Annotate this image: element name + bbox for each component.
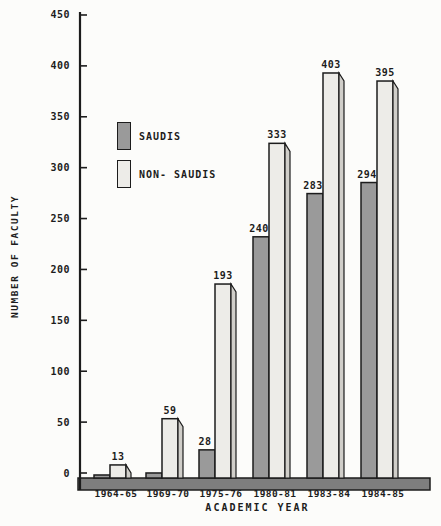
legend-label-saudis: SAUDIS bbox=[139, 131, 181, 142]
bar-saudis-1983-84 bbox=[307, 194, 323, 478]
legend-item-saudis: SAUDIS bbox=[117, 122, 216, 150]
bar-non-saudis-side-1983-84 bbox=[339, 73, 344, 478]
bar-saudis-1969-70 bbox=[146, 473, 162, 478]
bar-non-saudis-side-1964-65 bbox=[126, 465, 131, 478]
y-tick-label: 250 bbox=[50, 213, 70, 224]
y-tick-label: 50 bbox=[57, 417, 70, 428]
bar-value-label-saudis-1983-84: 283 bbox=[303, 180, 323, 191]
x-category-label-1980-81: 1980-81 bbox=[254, 488, 297, 499]
x-axis-title: ACADEMIC YEAR bbox=[160, 502, 355, 513]
x-category-label-1964-65: 1964-65 bbox=[95, 488, 138, 499]
bar-value-label-saudis-1984-85: 294 bbox=[357, 169, 377, 180]
bar-non-saudis-side-1969-70 bbox=[178, 419, 183, 478]
bar-value-label-non-saudis-1969-70: 59 bbox=[163, 405, 176, 416]
x-category-label-1969-70: 1969-70 bbox=[147, 488, 190, 499]
bar-value-label-non-saudis-1983-84: 403 bbox=[321, 59, 341, 70]
x-category-label-1984-85: 1984-85 bbox=[362, 488, 405, 499]
legend-swatch-saudis bbox=[117, 122, 131, 150]
y-tick-label: 400 bbox=[50, 60, 70, 71]
bar-value-label-non-saudis-1984-85: 395 bbox=[375, 67, 395, 78]
bar-non-saudis-face-1984-85 bbox=[377, 81, 393, 478]
y-tick-label: 100 bbox=[50, 366, 70, 377]
bar-non-saudis-face-1980-81 bbox=[269, 143, 285, 478]
bar-non-saudis-face-1964-65 bbox=[110, 465, 126, 478]
legend-item-non-saudis: NON- SAUDIS bbox=[117, 160, 216, 188]
bar-saudis-1984-85 bbox=[361, 183, 377, 478]
legend-swatch-non-saudis bbox=[117, 160, 131, 188]
bar-value-label-non-saudis-1980-81: 333 bbox=[267, 129, 287, 140]
bar-saudis-1964-65 bbox=[94, 475, 110, 478]
y-tick-label: 0 bbox=[63, 468, 70, 479]
y-tick-label: 300 bbox=[50, 162, 70, 173]
bar-non-saudis-face-1969-70 bbox=[162, 419, 178, 478]
chart-plot-canvas: 050100150200250300350400450131964-655919… bbox=[0, 0, 441, 526]
y-axis-title: NUMBER OF FACULTY bbox=[9, 182, 20, 332]
bar-saudis-1975-76 bbox=[199, 450, 215, 478]
bar-value-label-non-saudis-1964-65: 13 bbox=[111, 451, 124, 462]
chart-legend: SAUDIS NON- SAUDIS bbox=[117, 122, 216, 188]
bar-value-label-saudis-1980-81: 240 bbox=[249, 223, 269, 234]
y-tick-label: 450 bbox=[50, 9, 70, 20]
bar-value-label-saudis-1975-76: 28 bbox=[198, 436, 211, 447]
x-category-label-1983-84: 1983-84 bbox=[308, 488, 351, 499]
bar-non-saudis-side-1980-81 bbox=[285, 143, 290, 478]
x-category-label-1975-76: 1975-76 bbox=[200, 488, 243, 499]
bar-non-saudis-side-1975-76 bbox=[231, 284, 236, 478]
bar-saudis-1980-81 bbox=[253, 237, 269, 478]
bar-non-saudis-side-1984-85 bbox=[393, 81, 398, 478]
bar-non-saudis-face-1983-84 bbox=[323, 73, 339, 478]
bar-non-saudis-face-1975-76 bbox=[215, 284, 231, 478]
faculty-bar-chart-figure: 050100150200250300350400450131964-655919… bbox=[0, 0, 441, 526]
bar-value-label-non-saudis-1975-76: 193 bbox=[213, 270, 233, 281]
legend-label-non-saudis: NON- SAUDIS bbox=[139, 169, 216, 180]
y-tick-label: 350 bbox=[50, 111, 70, 122]
y-tick-label: 150 bbox=[50, 315, 70, 326]
y-tick-label: 200 bbox=[50, 264, 70, 275]
